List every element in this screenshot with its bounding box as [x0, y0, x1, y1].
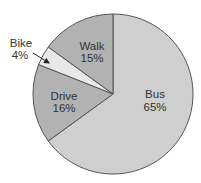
bus-label: Bus: [145, 88, 165, 100]
drive-pct: 16%: [52, 102, 75, 114]
walk-pct: 15%: [80, 52, 103, 64]
pie-chart: Bus 65% Drive 16% Bike 4% Walk 15%: [0, 0, 201, 183]
walk-label: Walk: [79, 40, 104, 52]
drive-label: Drive: [51, 90, 78, 102]
bus-pct: 65%: [143, 101, 166, 113]
bike-pct: 4%: [12, 49, 29, 61]
bike-label: Bike: [10, 37, 32, 49]
